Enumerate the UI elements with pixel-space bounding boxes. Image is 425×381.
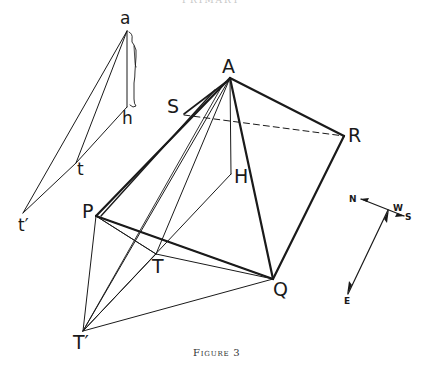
page-header-cropped: PRIMARY xyxy=(182,0,241,5)
label-H: H xyxy=(234,167,248,186)
label-a: a xyxy=(120,10,130,27)
compass-west-label: W xyxy=(393,204,403,213)
label-t-prime: t′ xyxy=(18,217,29,234)
compass-south-label: S xyxy=(405,213,411,222)
figure-caption: Figure 3 xyxy=(193,347,241,358)
figure-3-diagram: PRIMARY a h t t′ A S R H P T Q T′ W N S … xyxy=(0,0,425,381)
observer-figure xyxy=(23,31,136,213)
label-Q: Q xyxy=(273,280,288,299)
compass-east-label: E xyxy=(344,297,350,306)
label-S: S xyxy=(167,97,179,116)
label-P: P xyxy=(82,202,93,221)
label-T: T xyxy=(152,257,164,276)
label-T-prime: T′ xyxy=(73,333,89,352)
pyramid-geometry-drawing xyxy=(0,0,425,381)
label-R: R xyxy=(348,126,361,145)
label-t: t xyxy=(77,161,84,178)
label-h: h xyxy=(122,110,133,127)
compass-north-label: N xyxy=(349,195,357,204)
label-A: A xyxy=(222,57,235,76)
compass-rose xyxy=(348,199,404,294)
pyramid-edges xyxy=(96,78,344,279)
hidden-edge-sr xyxy=(184,115,344,136)
